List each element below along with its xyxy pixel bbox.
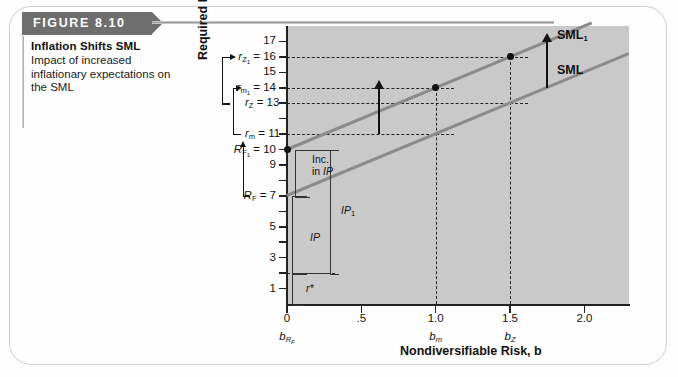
figure-page: FIGURE 8.10 Inflation Shifts SML Impact … [0, 0, 678, 377]
shift-arrow [378, 88, 380, 134]
bracket-inc-in-ip [295, 150, 310, 198]
callout-arrowhead [236, 85, 242, 91]
data-point [507, 53, 514, 60]
figure-number-label: FIGURE 8.10 [33, 16, 126, 30]
y-tick [279, 195, 286, 197]
y-tick [279, 102, 286, 104]
callout-connector-foot [222, 103, 230, 104]
x-tick-sublabel: bm [414, 330, 458, 342]
label-ip1: IP1 [341, 204, 355, 218]
y-tick-label: 9 [250, 159, 276, 170]
y-callout-rZ1: rZ1 = 16 [230, 51, 276, 64]
bracket-r-star [292, 273, 303, 306]
y-callout-rm1: rm1 = 14 [236, 82, 276, 95]
x-tick-sublabel: bRF [265, 330, 309, 342]
y-tick [279, 180, 286, 182]
guide-horizontal [287, 103, 528, 104]
y-tick [279, 87, 286, 89]
x-tick-label: .5 [341, 312, 381, 324]
y-tick-label: 17 [250, 35, 276, 46]
y-tick [279, 41, 286, 43]
label-ip: IP [310, 231, 320, 243]
label-r-star: r* [306, 282, 314, 294]
x-axis-title: Nondiversifiable Risk, b [400, 344, 542, 358]
y-tick [279, 288, 286, 290]
callout-connector-stem [222, 57, 223, 103]
data-point [284, 146, 291, 153]
y-tick-label: 3 [250, 252, 276, 263]
callout-connector-foot [233, 134, 241, 135]
x-axis-title-text: Nondiversifiable Risk, b [400, 344, 542, 358]
y-tick [279, 133, 286, 135]
guide-vertical [510, 57, 511, 304]
figure-description: Impact of increased inflationary expecta… [31, 54, 186, 95]
y-axis [286, 26, 288, 306]
callout-connector-arm [222, 57, 230, 58]
y-callout-rm: rm = 11 [245, 128, 276, 140]
y-axis-title: Required Return, r (%) [196, 0, 210, 60]
callout-arrowhead [230, 54, 236, 60]
x-tick-label: 2.0 [564, 312, 604, 324]
bracket-ip1-bottom [295, 273, 330, 274]
y-axis-title-text: Required Return, r (%) [196, 0, 210, 60]
y-tick-label: 5 [250, 221, 276, 232]
y-tick [279, 241, 286, 243]
guide-vertical [436, 88, 437, 304]
figure-title: Inflation Shifts SML [31, 40, 140, 52]
guide-horizontal [287, 57, 528, 58]
y-tick [279, 72, 286, 74]
y-tick [279, 164, 286, 166]
y-callout-RF: RF = 7 [236, 190, 276, 202]
y-tick [279, 226, 286, 228]
bracket-ip [292, 196, 307, 275]
caption-divider [22, 36, 24, 128]
y-tick [279, 272, 286, 274]
y-callout-rZ: rZ = 13 [245, 97, 276, 109]
callout-connector-stem-rf [243, 146, 244, 195]
bracket-ip1-top [295, 150, 330, 151]
y-tick-label: 1 [250, 283, 276, 294]
x-tick-sublabel: bZ [488, 330, 532, 342]
label-inc-in-ip: Inc.in IP [312, 153, 333, 177]
shift-arrow [546, 41, 548, 87]
x-tick-label: 1.0 [416, 312, 456, 324]
callout-connector-foot-rf [243, 196, 250, 197]
callout-arrowhead-rf [240, 141, 246, 147]
header-divider [152, 21, 554, 24]
y-callout-RF1: RF1 = 10 [228, 144, 276, 157]
x-tick-label: 0 [267, 312, 307, 324]
y-tick [279, 257, 286, 259]
y-tick [279, 56, 286, 58]
sml-label: SML [557, 63, 583, 77]
sml1-label: SML1 [557, 28, 588, 42]
y-tick [279, 211, 286, 213]
callout-connector-stem [233, 88, 234, 134]
y-tick [279, 118, 286, 120]
x-tick-label: 1.5 [490, 312, 530, 324]
x-axis [286, 304, 630, 306]
y-tick-label: 15 [250, 66, 276, 77]
